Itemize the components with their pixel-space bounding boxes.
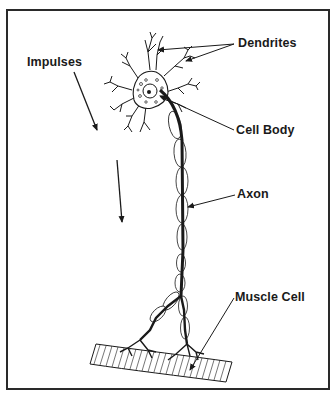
- label-axon: Axon: [237, 187, 269, 201]
- label-dendrites: Dendrites: [238, 36, 297, 50]
- impulse-arrows: [74, 72, 122, 222]
- cell-body: [133, 71, 168, 108]
- label-cell-body: Cell Body: [236, 123, 295, 137]
- muscle-cell: [90, 340, 232, 382]
- label-muscle-cell: Muscle Cell: [235, 290, 305, 304]
- label-pointers: [158, 44, 235, 370]
- label-impulses: Impulses: [27, 55, 82, 69]
- axon: [140, 90, 190, 344]
